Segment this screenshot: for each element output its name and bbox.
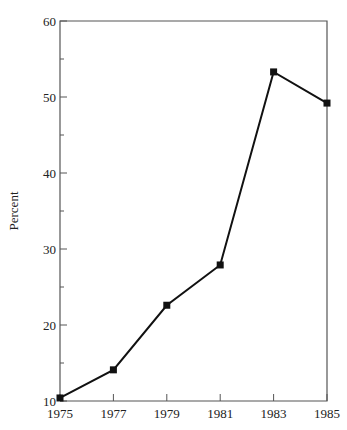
data-point-marker — [324, 100, 331, 107]
axes-box — [60, 21, 327, 401]
data-point-marker — [57, 394, 64, 401]
data-point-marker — [217, 261, 224, 268]
series-line — [60, 72, 327, 398]
data-point-marker — [270, 68, 277, 75]
y-tick-label: 40 — [43, 166, 56, 181]
x-tick-label: 1983 — [261, 406, 287, 421]
x-tick-label: 1975 — [47, 406, 73, 421]
x-tick-label: 1985 — [314, 406, 340, 421]
y-tick-label: 30 — [43, 242, 56, 257]
y-axis-label: Percent — [6, 191, 21, 230]
y-tick-label: 60 — [43, 14, 56, 29]
line-chart: 102030405060 197519771979198119831985 Pe… — [0, 0, 347, 430]
data-series — [57, 68, 331, 401]
y-axis: 102030405060 — [43, 14, 67, 409]
x-tick-label: 1981 — [207, 406, 233, 421]
x-axis: 197519771979198119831985 — [47, 394, 340, 421]
y-tick-label: 50 — [43, 90, 56, 105]
x-tick-label: 1977 — [100, 406, 127, 421]
x-tick-label: 1979 — [154, 406, 180, 421]
data-point-marker — [110, 366, 117, 373]
data-point-marker — [163, 302, 170, 309]
plot-frame — [60, 21, 327, 401]
y-tick-label: 20 — [43, 318, 56, 333]
